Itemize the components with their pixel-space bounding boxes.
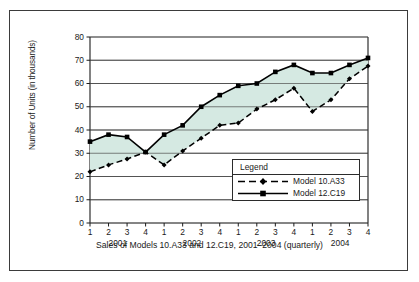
x-tick-quarter-label: 1 <box>230 228 246 236</box>
x-tick-quarter-label: 1 <box>156 228 172 236</box>
x-tick-quarter-label: 1 <box>304 228 320 236</box>
y-tick-label: 50 <box>64 102 84 110</box>
y-tick-label: 40 <box>64 126 84 134</box>
x-tick-quarter-label: 4 <box>212 228 228 236</box>
y-tick-label: 80 <box>64 33 84 41</box>
y-tick-label: 30 <box>64 149 84 157</box>
chart-canvas: Number of Units (in thousands) 010203040… <box>10 11 409 272</box>
x-tick-quarter-label: 3 <box>193 228 209 236</box>
y-tick-label: 0 <box>64 219 84 227</box>
x-tick-quarter-label: 2 <box>323 228 339 236</box>
chart-legend: Legend Model 10.A33 Model 12.C19 <box>232 159 360 201</box>
y-tick-label: 60 <box>64 79 84 87</box>
y-tick-label: 70 <box>64 56 84 64</box>
x-tick-quarter-label: 4 <box>286 228 302 236</box>
legend-label-model-10-a33: Model 10.A33 <box>293 176 345 186</box>
x-tick-quarter-label: 2 <box>101 228 117 236</box>
x-tick-quarter-label: 2 <box>175 228 191 236</box>
legend-label-model-12-c19: Model 12.C19 <box>293 188 345 198</box>
legend-swatch-solid-square <box>237 187 289 200</box>
y-tick-label: 10 <box>64 195 84 203</box>
x-tick-quarter-label: 2 <box>249 228 265 236</box>
x-tick-quarter-label: 3 <box>267 228 283 236</box>
x-tick-quarter-label: 3 <box>341 228 357 236</box>
y-tick-label: 20 <box>64 172 84 180</box>
legend-item-model-12-c19: Model 12.C19 <box>233 187 359 200</box>
x-tick-quarter-label: 4 <box>360 228 376 236</box>
x-tick-quarter-label: 1 <box>82 228 98 236</box>
legend-title: Legend <box>240 162 268 172</box>
x-tick-quarter-label: 4 <box>138 228 154 236</box>
x-tick-quarter-label: 3 <box>119 228 135 236</box>
chart-caption: Sales of Models 10.A33 and 12.C19, 2001–… <box>10 240 409 250</box>
figure-frame: Number of Units (in thousands) 010203040… <box>9 10 408 271</box>
